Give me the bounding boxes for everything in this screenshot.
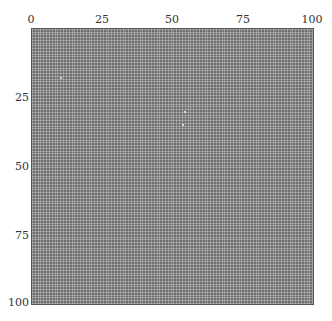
- x-tick-25: 25: [95, 14, 109, 25]
- x-tick-0: 0: [28, 14, 35, 25]
- y-tick-100: 100: [8, 297, 29, 308]
- light-speck: [182, 124, 184, 126]
- y-tick-50: 50: [15, 161, 29, 172]
- light-speck: [60, 77, 62, 79]
- x-tick-50: 50: [165, 14, 179, 25]
- x-tick-100: 100: [302, 14, 323, 25]
- y-tick-25: 25: [15, 92, 29, 103]
- x-tick-75: 75: [236, 14, 250, 25]
- light-speck: [184, 111, 186, 113]
- heatmap-plot-area: [31, 28, 314, 305]
- y-tick-75: 75: [15, 230, 29, 241]
